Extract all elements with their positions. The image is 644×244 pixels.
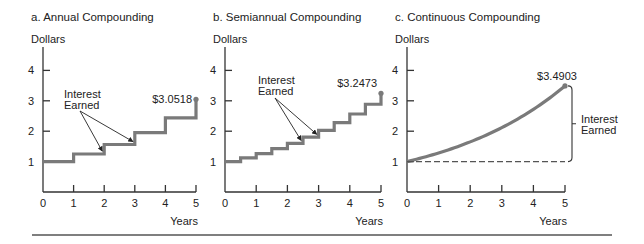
x-tick-label: 4 xyxy=(162,197,168,209)
x-tick-label: 2 xyxy=(101,197,107,209)
end-value-label: $3.4903 xyxy=(537,70,577,82)
x-tick-label: 0 xyxy=(40,197,46,209)
x-tick-label: 2 xyxy=(467,197,473,209)
annotation-label: Earned xyxy=(64,99,99,111)
y-tick-label: 3 xyxy=(28,95,34,107)
annotation-arrow xyxy=(275,98,317,134)
y-tick-label: 2 xyxy=(392,125,398,137)
x-axis-label: Years xyxy=(539,215,567,227)
end-value-label: $3.2473 xyxy=(337,77,377,89)
y-tick-label: 2 xyxy=(28,125,34,137)
end-point xyxy=(378,91,383,96)
chart-title: a. Annual Compounding xyxy=(31,11,154,23)
x-tick-label: 4 xyxy=(530,197,536,209)
x-tick-label: 3 xyxy=(499,197,505,209)
x-tick-label: 3 xyxy=(132,197,138,209)
end-value-label: $3.0518 xyxy=(152,93,192,105)
y-tick-label: 4 xyxy=(210,64,216,76)
x-tick-label: 5 xyxy=(378,197,384,209)
y-axis-label: Dollars xyxy=(213,33,248,45)
x-tick-label: 1 xyxy=(253,197,259,209)
end-point xyxy=(193,97,198,102)
annotation-label: Earned xyxy=(581,124,616,136)
y-tick-label: 4 xyxy=(28,64,34,76)
chart-title: c. Continuous Compounding xyxy=(395,11,540,23)
x-tick-label: 2 xyxy=(284,197,290,209)
y-axis-label: Dollars xyxy=(31,33,66,45)
interest-brace xyxy=(568,86,576,162)
y-tick-label: 3 xyxy=(392,95,398,107)
x-tick-label: 3 xyxy=(316,197,322,209)
y-tick-label: 1 xyxy=(210,156,216,168)
y-tick-label: 4 xyxy=(392,64,398,76)
y-tick-label: 1 xyxy=(28,156,34,168)
annotation-label: Earned xyxy=(258,85,293,97)
x-tick-label: 0 xyxy=(222,197,228,209)
y-tick-label: 3 xyxy=(210,95,216,107)
y-tick-label: 1 xyxy=(392,156,398,168)
x-tick-label: 1 xyxy=(436,197,442,209)
chart-title: b. Semiannual Compounding xyxy=(213,11,361,23)
series-line xyxy=(407,86,565,162)
x-axis-label: Years xyxy=(355,215,383,227)
compounding-charts: a. Annual CompoundingDollars1234012345Ye… xyxy=(0,0,644,244)
x-tick-label: 0 xyxy=(404,197,410,209)
x-tick-label: 5 xyxy=(193,197,199,209)
y-axis-label: Dollars xyxy=(395,33,430,45)
x-tick-label: 5 xyxy=(562,197,568,209)
y-tick-label: 2 xyxy=(210,125,216,137)
x-tick-label: 4 xyxy=(347,197,353,209)
annotation-arrow xyxy=(275,98,301,140)
end-point xyxy=(562,83,567,88)
x-axis-label: Years xyxy=(170,215,198,227)
x-tick-label: 1 xyxy=(71,197,77,209)
annotation-arrow xyxy=(80,111,133,142)
series-line xyxy=(225,93,381,161)
